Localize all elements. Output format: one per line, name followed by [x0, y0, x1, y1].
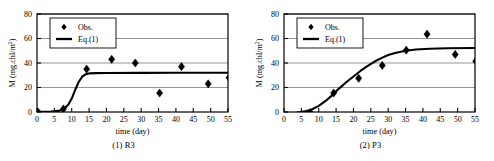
- x-tick-label: 55: [224, 115, 232, 124]
- chart-panel-p3: 0204060800510152025303540455055time (day…: [247, 0, 494, 161]
- data-point-marker: [473, 57, 479, 65]
- y-tick-label: 20: [271, 83, 279, 92]
- legend-label-obs: Obs.: [78, 23, 93, 32]
- x-tick-label: 35: [155, 115, 163, 124]
- x-tick-label: 40: [172, 115, 180, 124]
- x-tick-label: 20: [102, 115, 110, 124]
- y-tick-label: 20: [24, 83, 32, 92]
- x-axis-title: time (day): [116, 127, 150, 136]
- chart-panel-r3: 0204060800510152025303540455055time (day…: [0, 0, 247, 161]
- x-tick-label: 25: [367, 115, 375, 124]
- figure-panel-row: 0204060800510152025303540455055time (day…: [0, 0, 494, 161]
- x-tick-label: 5: [299, 115, 303, 124]
- data-point-marker: [356, 74, 362, 82]
- x-tick-label: 20: [349, 115, 357, 124]
- x-tick-label: 40: [419, 115, 427, 124]
- y-tick-label: 60: [271, 34, 279, 43]
- data-point-marker: [84, 65, 90, 73]
- y-axis-title: M (mg.chl/m2): [254, 38, 264, 87]
- y-tick-label: 40: [271, 59, 279, 68]
- x-tick-label: 15: [85, 115, 93, 124]
- x-tick-label: 10: [68, 115, 76, 124]
- y-tick-label: 60: [24, 34, 32, 43]
- data-point-marker: [132, 59, 138, 67]
- x-tick-label: 45: [436, 115, 444, 124]
- y-tick-label: 80: [271, 10, 279, 19]
- data-point-marker: [205, 80, 211, 88]
- y-axis-title: M (mg.chl/m2): [7, 38, 17, 87]
- panel-caption-r3: (1) R3: [0, 140, 247, 150]
- legend-label-eq: Eq.(1): [325, 35, 346, 44]
- y-tick-label: 0: [28, 108, 32, 117]
- observation-points: [35, 55, 232, 116]
- x-tick-label: 0: [35, 115, 39, 124]
- legend-label-eq: Eq.(1): [78, 35, 99, 44]
- x-tick-label: 55: [471, 115, 479, 124]
- x-tick-label: 10: [315, 115, 323, 124]
- data-point-marker: [109, 55, 115, 63]
- x-tick-label: 45: [189, 115, 197, 124]
- data-point-marker: [156, 89, 162, 97]
- data-point-marker: [452, 50, 458, 58]
- x-tick-label: 5: [52, 115, 56, 124]
- x-tick-label: 15: [332, 115, 340, 124]
- x-tick-label: 0: [282, 115, 286, 124]
- y-tick-label: 80: [24, 10, 32, 19]
- data-point-marker: [403, 46, 409, 54]
- fitted-curve: [284, 48, 475, 114]
- data-point-marker: [424, 30, 430, 38]
- x-tick-label: 30: [137, 115, 145, 124]
- data-point-marker: [226, 74, 232, 82]
- svg-text:M (mg.chl/m2): M (mg.chl/m2): [7, 38, 17, 87]
- chart-canvas-p3: 0204060800510152025303540455055time (day…: [247, 0, 494, 145]
- x-axis-title: time (day): [363, 127, 397, 136]
- svg-text:M (mg.chl/m2): M (mg.chl/m2): [254, 38, 264, 87]
- x-tick-label: 50: [454, 115, 462, 124]
- fitted-curve: [37, 73, 228, 112]
- x-tick-label: 50: [207, 115, 215, 124]
- x-tick-label: 25: [120, 115, 128, 124]
- y-tick-label: 0: [275, 108, 279, 117]
- legend-label-obs: Obs.: [325, 23, 340, 32]
- chart-canvas-r3: 0204060800510152025303540455055time (day…: [0, 0, 247, 145]
- data-point-marker: [178, 63, 184, 71]
- x-tick-label: 35: [402, 115, 410, 124]
- y-tick-label: 40: [24, 59, 32, 68]
- panel-caption-p3: (2) P3: [247, 140, 494, 150]
- x-tick-label: 30: [384, 115, 392, 124]
